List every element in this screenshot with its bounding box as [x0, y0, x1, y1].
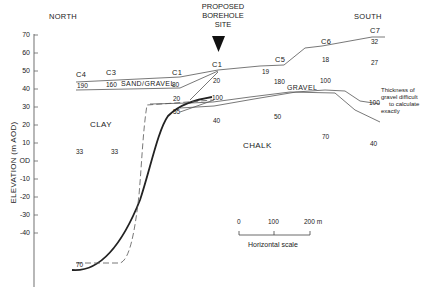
- value: 27: [371, 59, 378, 67]
- borehole-c7: C7: [370, 27, 380, 35]
- horizontal-scale-bar: [239, 231, 310, 235]
- value: 190: [77, 82, 88, 90]
- borehole-c5: C5: [275, 56, 285, 64]
- value: 33: [76, 148, 83, 156]
- borehole-marker-icon: [212, 36, 225, 52]
- borehole-c6: C6: [321, 38, 331, 46]
- borehole-c1: C1: [212, 61, 222, 69]
- borehole-c1-left: C1: [172, 69, 182, 77]
- value: 20: [213, 77, 220, 85]
- value: 100: [212, 94, 223, 102]
- value: 100: [369, 99, 380, 107]
- scale-tick: 0: [237, 218, 241, 226]
- value: 40: [370, 140, 377, 148]
- value: 50: [274, 113, 281, 121]
- scale-label: Horizontal scale: [248, 241, 298, 249]
- value: 32: [371, 38, 378, 46]
- value: 160: [106, 81, 117, 89]
- value: 80: [172, 81, 179, 89]
- value: 18: [322, 56, 329, 64]
- value: 55: [173, 108, 180, 116]
- note-line: to calculate: [381, 101, 419, 108]
- note-line: exactly: [381, 108, 419, 115]
- value: 20: [173, 95, 180, 103]
- value: 70: [322, 133, 329, 141]
- value: 100: [320, 77, 331, 85]
- note-line: Thickness of: [381, 87, 419, 94]
- unit-clay: CLAY: [90, 121, 112, 129]
- cross-section-drawing: [0, 0, 426, 291]
- scale-tick: 100: [268, 218, 279, 226]
- value: 40: [213, 117, 220, 125]
- scale-tick: 200 m: [304, 218, 322, 226]
- borehole-c4: C4: [76, 71, 86, 79]
- note-line: gravel difficult: [381, 94, 419, 101]
- value: 70: [76, 261, 83, 269]
- gravel-thickness-note: Thickness of gravel difficult to calcula…: [381, 87, 419, 115]
- unit-sand-gravel: SAND/GRAVEL: [121, 80, 175, 88]
- unit-chalk: CHALK: [243, 142, 272, 150]
- borehole-c3: C3: [106, 69, 116, 77]
- value: 19: [262, 68, 269, 76]
- unit-gravel: GRAVEL: [287, 84, 317, 92]
- value: 33: [111, 148, 118, 156]
- value: 180: [274, 78, 285, 86]
